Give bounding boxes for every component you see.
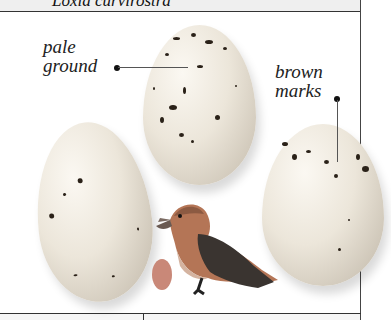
egg-right [262,124,384,286]
species-name: Loxia curvirostra [52,0,171,11]
bottom-divider [143,313,144,320]
egg-left [28,117,160,308]
crossbill-bird-illustration [150,190,280,302]
label-pale-ground: pale ground [43,37,97,75]
egg-top [143,25,256,185]
bottom-panel [0,314,360,320]
label-marks: marks [275,81,323,100]
label-pale: pale [43,37,97,56]
species-header: Loxia curvirostra [0,0,360,12]
brown-marks-leader-line [337,100,338,162]
label-ground: ground [43,56,97,75]
pale-ground-pointer-dot [114,65,120,71]
pale-ground-leader-line [118,67,188,68]
label-brown: brown [275,62,323,81]
frame-border-bottom [0,313,361,314]
label-brown-marks: brown marks [275,62,323,100]
